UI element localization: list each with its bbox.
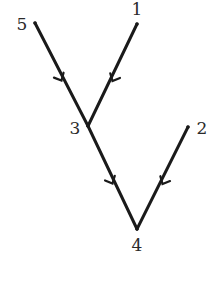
node-label-4: 4 (132, 235, 143, 255)
edge-2-to-4 (137, 127, 188, 229)
node-5 (33, 21, 37, 25)
edge-1-to-3 (88, 24, 137, 126)
arrowhead-icon (110, 73, 120, 81)
arrowhead-icon (54, 73, 64, 81)
edge-3-to-4 (88, 126, 137, 229)
node-label-1: 1 (132, 0, 143, 19)
node-4 (135, 227, 139, 231)
node-3 (86, 124, 90, 128)
node-1 (135, 22, 139, 26)
arrowhead-icon (105, 176, 115, 184)
node-2 (186, 125, 190, 129)
tree-diagram: 12345 (0, 0, 218, 292)
node-label-5: 5 (17, 14, 28, 34)
arrowhead-icon (160, 176, 170, 184)
node-label-2: 2 (197, 118, 208, 138)
node-label-3: 3 (70, 118, 81, 138)
edge-5-to-3 (35, 23, 88, 126)
